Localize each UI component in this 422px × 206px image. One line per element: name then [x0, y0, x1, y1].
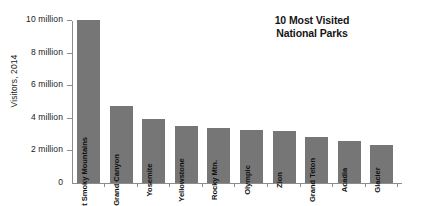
bar[interactable]: Glacier — [370, 145, 393, 183]
x-axis-tick-mark — [104, 183, 105, 187]
bar-item[interactable]: Olympic — [240, 130, 263, 183]
x-axis-tick-mark — [332, 183, 333, 187]
bar[interactable]: Olympic — [240, 130, 263, 183]
bar-item[interactable]: Yosemite — [142, 119, 165, 183]
y-axis-tick-mark — [67, 118, 72, 119]
bar[interactable]: Grand Canyon — [110, 106, 133, 183]
bar-category-label: Olympic — [243, 165, 252, 195]
y-axis-tick-mark — [67, 85, 72, 86]
x-axis-tick-mark — [300, 183, 301, 187]
x-axis-tick-mark — [397, 183, 398, 187]
bar-item[interactable]: Rocky Mtn. — [207, 128, 230, 183]
bar-category-label: Grand Canyon — [112, 154, 121, 206]
bar[interactable]: Yellowstone — [175, 126, 198, 183]
y-axis-tick: 8 million — [20, 53, 72, 54]
bar[interactable]: Grand Teton — [305, 137, 328, 183]
bar-category-label: Yosemite — [145, 164, 154, 197]
bar[interactable]: Great Smoky Mountains — [77, 20, 100, 183]
bar-category-label: Great Smoky Mountains — [80, 137, 89, 206]
bar[interactable]: Zion — [273, 131, 296, 183]
chart-screenshot: 10 Most Visited National Parks Visitors,… — [0, 0, 422, 206]
y-axis-tick: 0 — [20, 183, 72, 184]
bar-item[interactable]: Zion — [273, 131, 296, 183]
x-axis-tick-mark — [202, 183, 203, 187]
x-axis-tick-mark — [267, 183, 268, 187]
bar-item[interactable]: Great Smoky Mountains — [77, 20, 100, 183]
bar-category-label: Rocky Mtn. — [210, 160, 219, 200]
bar-item[interactable]: Glacier — [370, 145, 393, 183]
y-axis-tick: 10 million — [20, 20, 72, 21]
y-axis-tick-label: 6 million — [31, 79, 63, 89]
bar-item[interactable]: Grand Canyon — [110, 106, 133, 183]
y-axis-tick-label: 0 — [58, 177, 63, 187]
bar-item[interactable]: Grand Teton — [305, 137, 328, 183]
bar[interactable]: Yosemite — [142, 119, 165, 183]
x-axis-tick-mark — [365, 183, 366, 187]
y-axis-tick-label: 4 million — [31, 112, 63, 122]
bar[interactable]: Rocky Mtn. — [207, 128, 230, 183]
bar-category-label: Zion — [275, 172, 284, 188]
y-axis-tick: 2 million — [20, 150, 72, 151]
x-axis-tick-mark — [234, 183, 235, 187]
bar-series: Great Smoky MountainsGrand CanyonYosemit… — [73, 18, 402, 184]
y-axis-tick: 6 million — [20, 85, 72, 86]
y-axis-tick-mark — [67, 53, 72, 54]
bar-category-label: Grand Teton — [308, 158, 317, 202]
bar-item[interactable]: Yellowstone — [175, 126, 198, 183]
x-axis-tick-mark — [169, 183, 170, 187]
bar-category-label: Acadia — [340, 168, 349, 193]
y-axis-tick-mark — [67, 20, 72, 21]
y-axis-tick-label: 2 million — [31, 144, 63, 154]
y-axis-tick: 4 million — [20, 118, 72, 119]
x-axis-tick-mark — [137, 183, 138, 187]
y-axis-tick-mark — [67, 150, 72, 151]
y-axis-tick-label: 8 million — [31, 47, 63, 57]
bar-category-label: Glacier — [373, 167, 382, 192]
y-axis-title: Visitors, 2014 — [9, 43, 19, 119]
bar[interactable]: Acadia — [338, 141, 361, 183]
bar-category-label: Yellowstone — [177, 158, 186, 201]
bar-item[interactable]: Acadia — [338, 141, 361, 183]
plot-area: 02 million4 million6 million8 million10 … — [72, 18, 402, 186]
y-axis-tick-label: 10 million — [26, 14, 63, 24]
